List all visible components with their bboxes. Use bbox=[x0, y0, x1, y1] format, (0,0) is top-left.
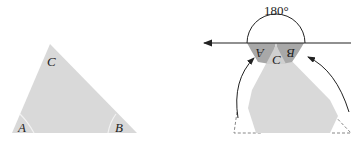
semicircle-arc bbox=[247, 14, 305, 43]
label-b: B bbox=[115, 120, 123, 135]
label-b-folded: B bbox=[287, 46, 295, 61]
label-a: A bbox=[17, 120, 26, 135]
angle-sum-diagram: C A B 180° A B C bbox=[0, 0, 351, 147]
label-c: C bbox=[47, 54, 56, 69]
folded-triangle: 180° A B C bbox=[204, 3, 351, 133]
original-triangle: C A B bbox=[12, 44, 137, 135]
angle-180-label: 180° bbox=[264, 3, 289, 18]
label-c-folded: C bbox=[272, 52, 281, 67]
label-a-folded: A bbox=[256, 46, 265, 61]
